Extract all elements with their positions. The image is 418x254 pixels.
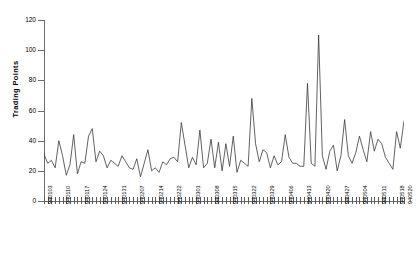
y-axis-tick-label: 80: [4, 76, 36, 83]
y-axis-tick-80: 80: [0, 76, 44, 84]
y-axis-tick-60: 60: [0, 107, 44, 115]
y-axis-tick-label: 0: [4, 197, 36, 204]
x-axis-label-group: 9401039401109401179401249401319402079402…: [44, 204, 404, 254]
y-axis-tick-120: 120: [0, 16, 44, 24]
y-axis-tick-0: 0: [0, 197, 44, 205]
x-axis-tick-label: 940520: [407, 185, 413, 204]
data-series-line: [44, 20, 404, 201]
line-chart: Trading Points 020406080100120 940103940…: [0, 0, 418, 254]
y-axis-tick-label: 100: [4, 46, 36, 53]
y-axis-tick-label: 60: [4, 107, 36, 114]
y-axis-tick-label: 20: [4, 167, 36, 174]
y-axis-tick-40: 40: [0, 137, 44, 145]
y-axis-tick-group: 020406080100120: [0, 0, 44, 254]
y-axis-tick-label: 120: [4, 16, 36, 23]
y-axis-tick-label: 40: [4, 137, 36, 144]
y-axis-tick-100: 100: [0, 46, 44, 54]
y-axis-tick-20: 20: [0, 167, 44, 175]
